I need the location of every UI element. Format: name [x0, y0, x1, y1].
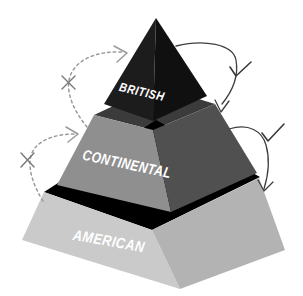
pyramid-diagram-canvas: BRITISH CONTINENTAL AMERICAN — [0, 0, 303, 296]
